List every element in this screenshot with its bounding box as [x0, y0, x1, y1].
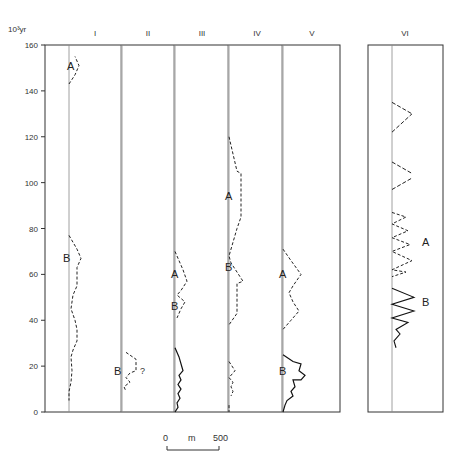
- main-panel-frame: [45, 45, 340, 412]
- y-tick-label: 80: [29, 225, 38, 234]
- peak-label-a: A: [67, 60, 75, 72]
- dashed-stroke: [392, 102, 412, 113]
- peak-label-a: A: [279, 268, 287, 280]
- column-ii: IIB?: [114, 29, 150, 412]
- column-header: III: [199, 29, 206, 38]
- peak-label-b: B: [225, 261, 232, 273]
- y-tick-label: 40: [29, 316, 38, 325]
- y-tick-label: 160: [25, 41, 39, 50]
- scale-bar-unit: m: [188, 433, 196, 443]
- column-iv: IVAB: [225, 29, 261, 412]
- column-header: I: [94, 29, 96, 38]
- dashed-stroke: [392, 162, 412, 173]
- y-axis: 020406080100120140160: [25, 41, 45, 417]
- chronology-chart: 020406080100120140160 10³yr IABIIB?IIIAB…: [0, 0, 462, 469]
- dashed-zigzag: [392, 212, 412, 276]
- dashed-curve: [229, 137, 243, 325]
- scale-bar-line: [167, 446, 219, 450]
- columns: IABIIB?IIIABIVABVABVIAB: [63, 29, 430, 412]
- column-i: IAB: [63, 29, 96, 412]
- column-vi: VIAB: [392, 29, 430, 412]
- solid-curve: [175, 348, 183, 412]
- column-header: V: [309, 29, 315, 38]
- peak-label-b: B: [114, 365, 121, 377]
- column-header: IV: [253, 29, 261, 38]
- dashed-curve: [69, 235, 81, 400]
- peak-label-b: B: [171, 300, 178, 312]
- column-header: II: [146, 29, 150, 38]
- y-tick-label: 140: [25, 87, 39, 96]
- solid-zigzag: [392, 288, 414, 348]
- uncertain-annotation: ?: [140, 366, 145, 376]
- dashed-curve: [124, 352, 136, 391]
- solid-curve: [283, 355, 305, 412]
- column-iii: IIIAB: [171, 29, 205, 412]
- dashed-curve: [283, 249, 301, 329]
- y-axis-unit-label: 10³yr: [8, 25, 27, 34]
- panel-vi-frame: [368, 45, 443, 412]
- y-tick-label: 20: [29, 362, 38, 371]
- y-tick-label: 120: [25, 133, 39, 142]
- y-tick-label: 100: [25, 179, 39, 188]
- peak-label-b: B: [63, 252, 70, 264]
- peak-label-b: B: [422, 296, 429, 308]
- y-tick-label: 60: [29, 270, 38, 279]
- peak-label-a: A: [225, 190, 233, 202]
- peak-label-b: B: [279, 365, 286, 377]
- peak-label-a: A: [171, 268, 179, 280]
- scale-bar-end: 500: [213, 433, 228, 443]
- dashed-stroke: [392, 178, 412, 189]
- dashed-stroke: [392, 114, 412, 132]
- peak-label-a: A: [422, 236, 430, 248]
- column-header: VI: [401, 29, 409, 38]
- scale-bar: 0 m 500: [163, 433, 228, 450]
- dashed-curve: [229, 362, 235, 396]
- scale-bar-start: 0: [163, 433, 168, 443]
- column-v: VAB: [279, 29, 315, 412]
- y-tick-label: 0: [34, 408, 39, 417]
